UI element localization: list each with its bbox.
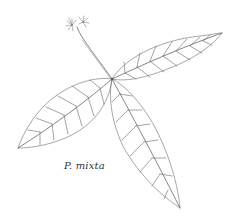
- flower-head-right: [79, 16, 89, 27]
- leaflet-left: [18, 78, 112, 148]
- flower-stalk: [66, 16, 112, 79]
- species-caption: P. mixta: [64, 160, 105, 171]
- flower-head-left: [66, 18, 76, 31]
- leaf-junction: [111, 78, 114, 81]
- leaflet-upper-right: [112, 33, 222, 80]
- leaflet-bottom: [111, 79, 181, 208]
- leaf-illustration: [0, 0, 239, 223]
